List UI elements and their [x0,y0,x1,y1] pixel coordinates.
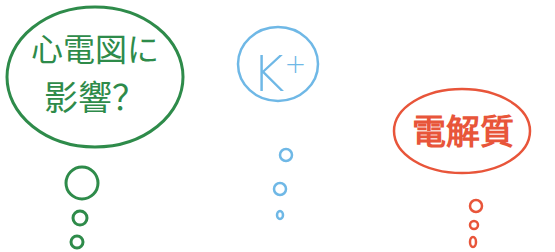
ecg-question-line2: 影響？ [30,78,160,118]
potassium-symbol: K [252,45,285,103]
ecg-question-line1: 心電図に [25,30,165,70]
potassium-label: K+ [244,36,314,102]
potassium-charge: + [285,49,307,79]
electrolyte-label: 電解質 [398,112,528,152]
